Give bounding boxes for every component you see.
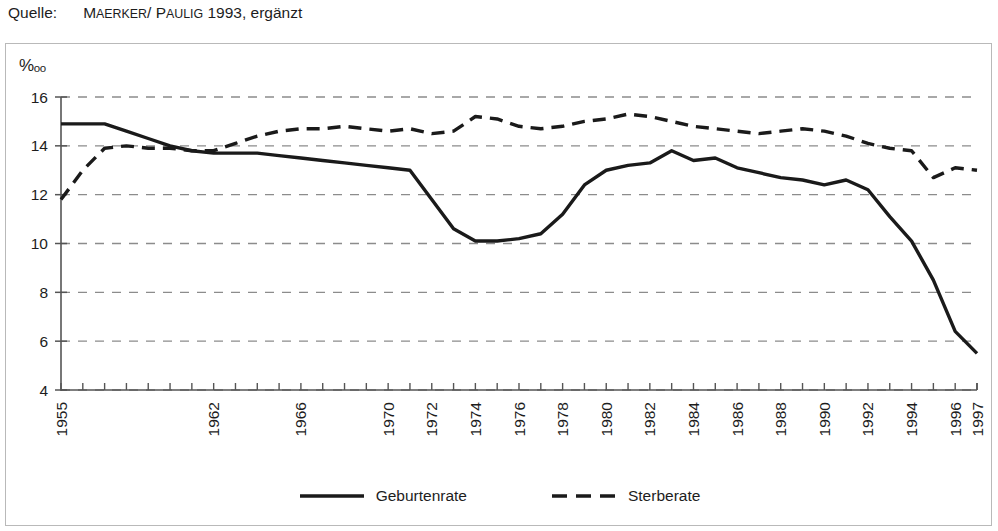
citation-initial-m: M [83,4,96,21]
x-tick-label: 1976 [511,402,528,436]
x-tick-label: 1955 [53,402,70,436]
legend-swatch-dashed [551,491,617,501]
x-tick-labels-group: 1955196219661970197219741976197819801982… [53,402,986,437]
y-tick-label: 14 [31,137,49,154]
legend-label-sterberate: Sterberate [628,487,700,505]
y-tick-label: 16 [31,89,48,106]
y-tick-label: 6 [39,333,48,350]
gridlines-group [61,97,977,390]
citation-paulig: AULIG [166,7,203,21]
citation-separator: / P [147,4,166,21]
y-tick-label: 8 [39,284,48,301]
legend-item-sterberate[interactable]: Sterberate [551,487,700,505]
x-tick-label: 1966 [292,402,309,436]
y-tick-label: 4 [39,382,48,399]
x-tick-label: 1980 [598,402,615,437]
legend-item-geburtenrate[interactable]: Geburtenrate [299,487,467,505]
x-tick-label: 1994 [903,402,920,437]
citation-maerker: AERKER [96,7,147,21]
x-tick-label: 1982 [641,402,658,436]
chart-panel: %oo 46810121416 195519621966197019721974… [5,43,992,526]
y-tick-label: 12 [31,186,48,203]
x-tick-label: 1996 [947,402,964,436]
series-line-sterberate [61,114,977,199]
source-credit: Quelle: MAERKER/ PAULIG 1993, ergänzt [8,4,302,22]
x-tick-label: 1986 [729,402,746,436]
x-tick-label: 1962 [205,402,222,436]
data-series-group [61,114,977,353]
series-line-geburtenrate [61,124,977,354]
x-tick-label: 1997 [969,402,986,436]
axes-group [55,97,977,391]
y-tick-labels-group: 46810121416 [31,89,49,399]
chart-legend: Geburtenrate Sterberate [6,487,993,505]
legend-swatch-solid [299,491,365,501]
x-tick-label: 1992 [859,402,876,436]
x-tick-label: 1972 [423,402,440,436]
x-tick-label: 1970 [380,402,397,437]
citation-year-note: 1993, ergänzt [203,4,302,21]
line-chart-svg: 46810121416 1955196219661970197219741976… [6,44,993,527]
legend-label-geburtenrate: Geburtenrate [376,487,467,505]
chart-page: Quelle: MAERKER/ PAULIG 1993, ergänzt %o… [0,0,998,531]
x-tick-label: 1988 [772,402,789,436]
plot-area: 46810121416 1955196219661970197219741976… [6,44,993,527]
x-tick-label: 1974 [467,402,484,437]
source-citation: MAERKER/ PAULIG 1993, ergänzt [83,4,302,22]
x-tick-label: 1984 [685,402,702,437]
x-tick-label: 1990 [816,402,833,437]
source-label: Quelle: [8,4,57,22]
x-tick-label: 1978 [554,402,571,436]
y-tick-label: 10 [31,235,49,252]
